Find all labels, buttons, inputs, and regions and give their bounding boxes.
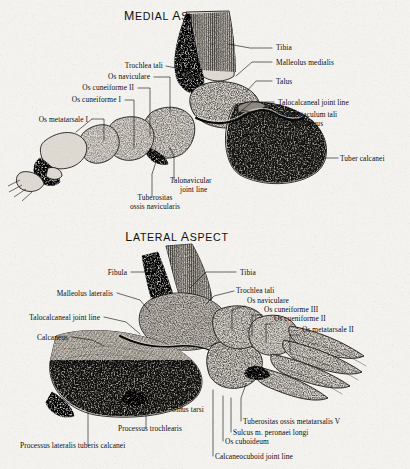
anatomical-plate: MEDIAL ASPECT <box>0 0 410 469</box>
paper-grain <box>0 0 410 469</box>
